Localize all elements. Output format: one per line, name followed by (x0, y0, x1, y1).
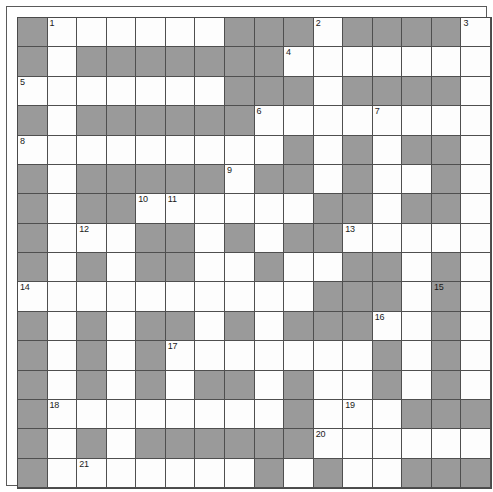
open-cell[interactable] (314, 341, 344, 370)
open-cell[interactable] (402, 253, 432, 282)
open-cell[interactable] (314, 77, 344, 106)
open-cell[interactable] (48, 106, 78, 135)
open-cell[interactable] (314, 400, 344, 429)
open-cell[interactable] (48, 253, 78, 282)
open-cell[interactable] (195, 136, 225, 165)
open-cell[interactable] (461, 77, 491, 106)
open-cell[interactable] (107, 400, 137, 429)
open-cell[interactable] (402, 312, 432, 341)
open-cell[interactable] (195, 459, 225, 488)
open-cell[interactable] (432, 47, 462, 76)
open-cell[interactable]: 10 (136, 194, 166, 223)
open-cell[interactable] (166, 400, 196, 429)
open-cell[interactable]: 1 (48, 18, 78, 47)
open-cell[interactable] (195, 224, 225, 253)
open-cell[interactable] (402, 371, 432, 400)
open-cell[interactable] (255, 136, 285, 165)
open-cell[interactable] (255, 371, 285, 400)
open-cell[interactable] (48, 341, 78, 370)
open-cell[interactable] (195, 400, 225, 429)
open-cell[interactable] (284, 341, 314, 370)
open-cell[interactable] (225, 459, 255, 488)
open-cell[interactable] (284, 459, 314, 488)
open-cell[interactable]: 4 (284, 47, 314, 76)
open-cell[interactable] (48, 224, 78, 253)
open-cell[interactable] (107, 77, 137, 106)
open-cell[interactable] (77, 400, 107, 429)
open-cell[interactable] (461, 194, 491, 223)
open-cell[interactable]: 16 (373, 312, 403, 341)
open-cell[interactable] (77, 18, 107, 47)
open-cell[interactable] (343, 47, 373, 76)
open-cell[interactable] (284, 106, 314, 135)
open-cell[interactable] (402, 106, 432, 135)
open-cell[interactable] (373, 165, 403, 194)
open-cell[interactable] (461, 253, 491, 282)
open-cell[interactable]: 11 (166, 194, 196, 223)
open-cell[interactable] (136, 136, 166, 165)
open-cell[interactable]: 14 (18, 282, 48, 311)
open-cell[interactable] (195, 194, 225, 223)
open-cell[interactable] (225, 253, 255, 282)
open-cell[interactable] (107, 429, 137, 458)
open-cell[interactable] (166, 371, 196, 400)
open-cell[interactable] (48, 429, 78, 458)
open-cell[interactable] (432, 106, 462, 135)
open-cell[interactable] (461, 224, 491, 253)
open-cell[interactable] (225, 341, 255, 370)
open-cell[interactable]: 2 (314, 18, 344, 47)
open-cell[interactable] (402, 165, 432, 194)
open-cell[interactable] (195, 77, 225, 106)
open-cell[interactable]: 19 (343, 400, 373, 429)
open-cell[interactable]: 13 (343, 224, 373, 253)
open-cell[interactable] (461, 136, 491, 165)
open-cell[interactable] (461, 429, 491, 458)
open-cell[interactable] (432, 429, 462, 458)
open-cell[interactable] (225, 400, 255, 429)
open-cell[interactable] (402, 282, 432, 311)
open-cell[interactable] (48, 47, 78, 76)
open-cell[interactable]: 3 (461, 18, 491, 47)
open-cell[interactable] (314, 253, 344, 282)
open-cell[interactable] (255, 312, 285, 341)
open-cell[interactable] (195, 312, 225, 341)
open-cell[interactable] (48, 282, 78, 311)
open-cell[interactable] (136, 282, 166, 311)
open-cell[interactable] (255, 282, 285, 311)
open-cell[interactable] (166, 459, 196, 488)
open-cell[interactable] (48, 77, 78, 106)
open-cell[interactable] (343, 459, 373, 488)
open-cell[interactable] (284, 282, 314, 311)
crossword-grid[interactable]: 123456789101112131415161718192021 (18, 18, 491, 488)
open-cell[interactable]: 17 (166, 341, 196, 370)
open-cell[interactable] (461, 106, 491, 135)
open-cell[interactable] (107, 136, 137, 165)
open-cell[interactable] (166, 77, 196, 106)
open-cell[interactable] (195, 341, 225, 370)
open-cell[interactable] (461, 341, 491, 370)
open-cell[interactable] (343, 371, 373, 400)
open-cell[interactable] (432, 224, 462, 253)
open-cell[interactable] (136, 400, 166, 429)
open-cell[interactable] (255, 194, 285, 223)
open-cell[interactable] (107, 341, 137, 370)
open-cell[interactable] (107, 282, 137, 311)
open-cell[interactable] (461, 47, 491, 76)
open-cell[interactable] (166, 282, 196, 311)
open-cell[interactable] (373, 136, 403, 165)
open-cell[interactable] (402, 429, 432, 458)
open-cell[interactable] (77, 136, 107, 165)
open-cell[interactable] (48, 371, 78, 400)
open-cell[interactable] (343, 429, 373, 458)
open-cell[interactable] (77, 282, 107, 311)
open-cell[interactable] (255, 400, 285, 429)
open-cell[interactable]: 7 (373, 106, 403, 135)
open-cell[interactable]: 6 (255, 106, 285, 135)
open-cell[interactable]: 9 (225, 165, 255, 194)
open-cell[interactable] (255, 224, 285, 253)
open-cell[interactable] (373, 47, 403, 76)
open-cell[interactable] (136, 77, 166, 106)
open-cell[interactable] (225, 136, 255, 165)
open-cell[interactable]: 21 (77, 459, 107, 488)
open-cell[interactable] (343, 341, 373, 370)
